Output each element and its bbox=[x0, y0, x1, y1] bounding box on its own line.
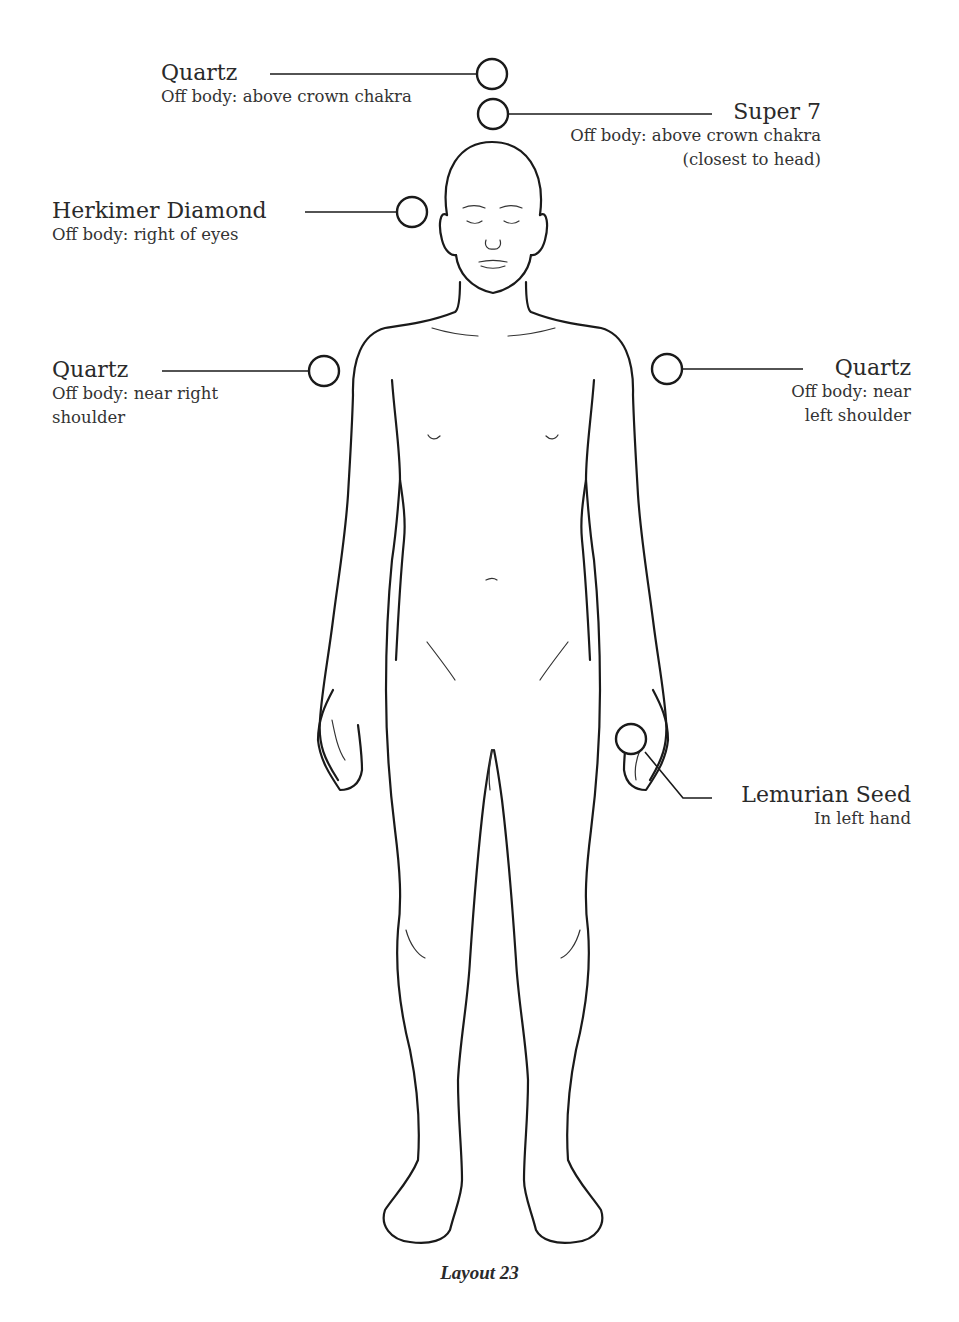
label-super7-crown: Super 7 Off body: above crown chakra (cl… bbox=[570, 99, 821, 172]
crystal-marker-herkimer-eyes bbox=[397, 197, 427, 227]
label-quartz-left-shoulder: Quartz Off body: near left shoulder bbox=[791, 355, 911, 428]
legs-drawing bbox=[384, 690, 603, 1243]
torso-drawing bbox=[320, 282, 667, 780]
crystal-position: Off body: above crown chakra bbox=[161, 85, 412, 109]
crystal-position-cont: left shoulder bbox=[791, 404, 911, 428]
crystal-position-note: (closest to head) bbox=[570, 148, 821, 172]
crystal-position: Off body: above crown chakra bbox=[570, 124, 821, 148]
crystal-position: Off body: near right bbox=[52, 382, 218, 406]
label-quartz-crown: Quartz Off body: above crown chakra bbox=[161, 60, 412, 109]
crystal-name: Quartz bbox=[791, 355, 911, 380]
crystal-layout-diagram: Quartz Off body: above crown chakra Supe… bbox=[0, 0, 959, 1322]
crystal-marker-quartz-crown bbox=[477, 59, 507, 89]
label-quartz-right-shoulder: Quartz Off body: near right shoulder bbox=[52, 357, 218, 430]
figure-caption: Layout 23 bbox=[0, 1262, 959, 1284]
crystal-marker-quartz-left-shoulder bbox=[652, 354, 682, 384]
crystal-position: Off body: right of eyes bbox=[52, 223, 267, 247]
crystal-marker-super7-crown bbox=[478, 99, 508, 129]
crystal-name: Quartz bbox=[52, 357, 218, 382]
label-herkimer-eyes: Herkimer Diamond Off body: right of eyes bbox=[52, 198, 267, 247]
crystal-name: Super 7 bbox=[570, 99, 821, 124]
crystal-position: Off body: near bbox=[791, 380, 911, 404]
crystal-position: In left hand bbox=[741, 807, 911, 831]
label-lemurian-left-hand: Lemurian Seed In left hand bbox=[741, 782, 911, 831]
crystal-position-cont: shoulder bbox=[52, 406, 218, 430]
crystal-name: Herkimer Diamond bbox=[52, 198, 267, 223]
crystal-marker-lemurian-left-hand bbox=[616, 724, 646, 754]
head-drawing bbox=[440, 142, 547, 293]
crystal-marker-quartz-right-shoulder bbox=[309, 356, 339, 386]
crystal-name: Quartz bbox=[161, 60, 412, 85]
leader-lines bbox=[162, 74, 803, 798]
crystal-name: Lemurian Seed bbox=[741, 782, 911, 807]
